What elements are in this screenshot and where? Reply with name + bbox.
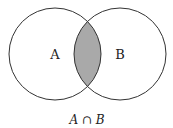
set-b-label: B xyxy=(115,47,125,62)
caption: A ∩ B xyxy=(68,113,104,127)
set-a-label: A xyxy=(49,47,60,62)
venn-diagram: A B A ∩ B xyxy=(0,0,173,128)
